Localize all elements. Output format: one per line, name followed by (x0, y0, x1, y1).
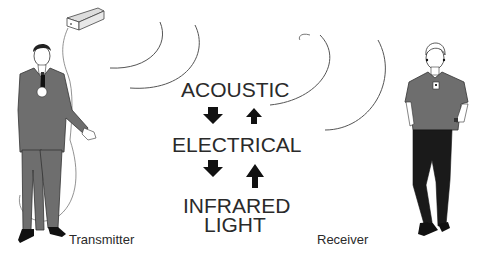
receiver-label: Receiver (317, 232, 368, 247)
arrow-down-2 (203, 160, 223, 177)
stage-label-electrical: ELECTRICAL (172, 134, 302, 155)
stage-label-acoustic: ACOUSTIC (181, 79, 290, 100)
ir-emitter-box (67, 8, 104, 30)
receiver-figure (405, 43, 468, 236)
arrow-up-2 (246, 164, 264, 188)
arrow-down-1 (203, 107, 223, 124)
transmitter-label: Transmitter (69, 232, 134, 247)
infrared-system-diagram: ACOUSTIC ELECTRICAL INFRARED LIGHT Trans… (0, 0, 485, 255)
stage-label-light: LIGHT (204, 214, 266, 235)
arrow-up-1 (246, 108, 262, 124)
transmitter-figure (18, 44, 96, 243)
